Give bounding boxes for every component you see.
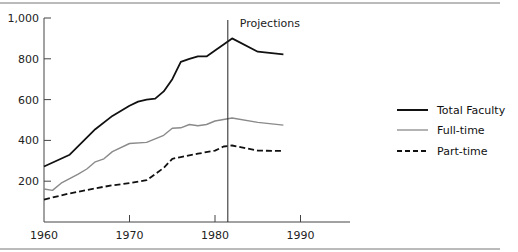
legend-label: Full-time [437,124,485,137]
legend-label: Part-time [437,145,488,158]
y-tick-label: 200 [18,175,39,188]
series-full-time [44,118,283,190]
legend-item-total-faculty: Total Faculty [397,104,506,117]
x-tick-label: 1990 [287,229,315,242]
legend-item-full-time: Full-time [397,124,485,137]
y-tick-label: 400 [18,134,39,147]
x-tick-label: 1980 [201,229,229,242]
legend-item-part-time: Part-time [397,145,488,158]
y-tick-label: 1,000 [8,12,40,25]
series-total-faculty [44,38,283,166]
y-tick-label: 600 [18,94,39,107]
projections-label: Projections [240,17,300,30]
y-tick-label: 800 [18,53,39,66]
legend: Total Faculty Full-time Part-time [397,104,506,158]
line-chart: 2004006008001,0001960197019801990 Projec… [0,0,518,252]
legend-label: Total Faculty [436,104,506,117]
x-tick-label: 1970 [116,229,144,242]
x-tick-label: 1960 [30,229,58,242]
series-group [44,38,283,199]
axes: 2004006008001,0001960197019801990 [8,12,351,242]
